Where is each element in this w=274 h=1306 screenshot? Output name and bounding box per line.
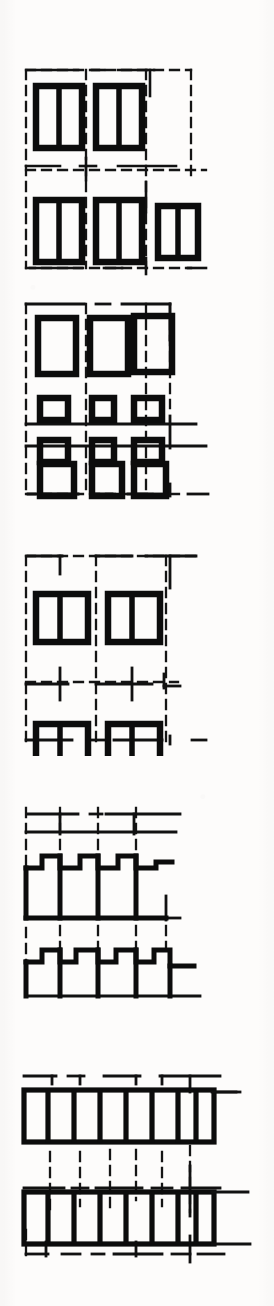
- panel-4-figure: [0, 800, 274, 1008]
- panel-2: [0, 298, 274, 510]
- motif-glyph: [92, 440, 114, 462]
- motif-glyph: [36, 594, 88, 642]
- motif-glyph: [40, 464, 74, 496]
- panel-4-step-row-0: [26, 856, 172, 918]
- panel-2-figure: [0, 298, 274, 510]
- panel-3: [0, 548, 274, 756]
- panel-5-band-1: [24, 1192, 214, 1244]
- panel-3-figure: [0, 548, 274, 756]
- motif-glyph: [92, 464, 122, 496]
- panel-1-motifs: [36, 86, 198, 262]
- panel-4-ticks: [26, 814, 200, 996]
- pattern-plate-page: [0, 0, 274, 1306]
- motif-glyph: [96, 86, 142, 148]
- panel-2-motifs: [38, 316, 172, 496]
- panel-4: [0, 800, 274, 1008]
- panel-5-band-0: [24, 1090, 214, 1142]
- panel-5: [0, 1040, 274, 1268]
- motif-glyph: [24, 1192, 214, 1244]
- panel-5-ticks: [24, 1076, 236, 1262]
- motif-glyph: [40, 398, 68, 420]
- motif-glyph: [134, 316, 172, 372]
- panel-1-figure: [0, 62, 274, 280]
- motif-glyph: [24, 1090, 214, 1142]
- motif-glyph: [158, 206, 198, 258]
- panel-5-figure: [0, 1040, 274, 1268]
- motif-glyph: [92, 398, 114, 420]
- panel-3-motifs: [36, 594, 160, 756]
- motif-glyph: [134, 398, 162, 420]
- motif-glyph: [134, 440, 162, 462]
- panel-3-ticks: [26, 556, 206, 744]
- motif-glyph: [38, 318, 76, 374]
- motif-glyph: [96, 200, 142, 262]
- motif-glyph: [36, 86, 82, 148]
- motif-glyph: [40, 440, 68, 462]
- panel-5-outer-rules: [212, 1092, 250, 1244]
- motif-glyph: [36, 200, 82, 262]
- motif-glyph: [90, 318, 128, 374]
- motif-glyph: [108, 594, 160, 642]
- panel-4-step-row-1: [26, 950, 194, 996]
- panel-1: [0, 62, 274, 280]
- motif-glyph: [134, 464, 166, 496]
